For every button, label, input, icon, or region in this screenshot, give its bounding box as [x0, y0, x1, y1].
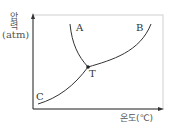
plot-frame — [33, 15, 163, 109]
x-axis-label: 온도(℃) — [120, 111, 153, 124]
label-c: C — [36, 91, 44, 102]
phase-diagram — [0, 0, 171, 129]
y-axis-arrow-icon — [31, 13, 35, 19]
label-t: T — [89, 68, 96, 79]
label-b: B — [136, 22, 143, 33]
label-a: A — [76, 22, 83, 33]
curve-c — [38, 67, 88, 104]
